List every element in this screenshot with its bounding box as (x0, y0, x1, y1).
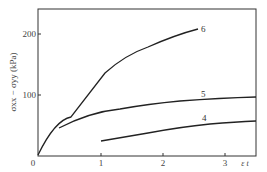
x-tick-label-2: 2 (161, 158, 166, 168)
origin-label: 0 (31, 158, 36, 168)
curve-6 (38, 29, 198, 155)
curve-label-4: 4 (202, 113, 207, 123)
y-axis: 200 100 0 σxx − σyy (kPa) (8, 29, 41, 168)
curve-label-6: 6 (201, 24, 206, 34)
x-tick-label-3: 3 (223, 158, 228, 168)
plot-frame (38, 9, 256, 156)
x-axis-title: ε t (241, 159, 249, 168)
y-axis-title: σxx − σyy (kPa) (8, 52, 18, 111)
stress-strain-chart: 200 100 0 σxx − σyy (kPa) 1 2 3 ε t 6 5 … (0, 0, 267, 172)
y-tick-label-200: 200 (23, 29, 37, 39)
x-tick-label-1: 1 (99, 158, 104, 168)
curve-4 (101, 121, 256, 141)
y-tick-label-100: 100 (23, 90, 37, 100)
curve-label-5: 5 (201, 89, 206, 99)
x-axis: 1 2 3 ε t (99, 153, 250, 168)
